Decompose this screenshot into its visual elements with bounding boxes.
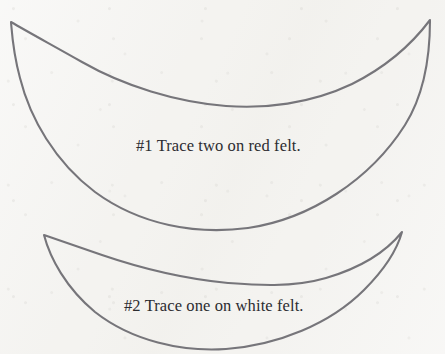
piece-1-outline — [11, 20, 430, 230]
piece-1-label: #1 Trace two on red felt. — [136, 137, 301, 155]
pattern-sheet: #1 Trace two on red felt. #2 Trace one o… — [0, 0, 445, 354]
piece-2-label: #2 Trace one on white felt. — [124, 297, 304, 315]
piece-2-outline — [44, 232, 402, 349]
